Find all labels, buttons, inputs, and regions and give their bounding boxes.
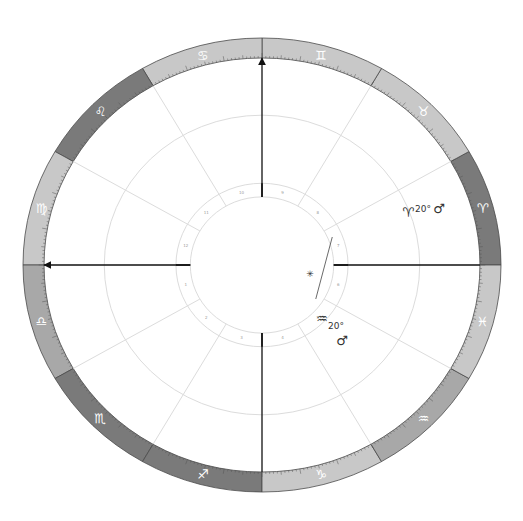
- planet-mars-0[interactable]: ♈20°♂: [402, 201, 445, 220]
- house-cusp-line: [73, 161, 200, 230]
- house-number: 3: [240, 335, 243, 340]
- house-number: 2: [205, 315, 208, 320]
- house-cusp-line: [73, 299, 200, 368]
- house-cusp-line: [298, 324, 371, 444]
- sign-glyph-scorpio-icon: ♏: [95, 411, 107, 426]
- house-ring-inner: [190, 197, 333, 333]
- aspect-marker-icon: ✳: [306, 269, 314, 279]
- sign-segment-pisces: [451, 265, 501, 379]
- house-number: 4: [281, 335, 284, 340]
- sign-glyph-leo-icon: ♌: [95, 104, 107, 119]
- sign-glyph-libra-icon: ♎: [35, 314, 47, 329]
- sign-glyph-sagittarius-icon: ♐: [197, 467, 209, 482]
- astrology-chart-wheel: ♈♉♊♋♌♍♎♏♐♑♒♓235689111214710✳♈20°♂♒20°♂: [0, 0, 523, 521]
- sign-segment-libra: [23, 265, 73, 379]
- sign-segment-virgo: [23, 152, 73, 266]
- sign-glyph-virgo-icon: ♍: [35, 201, 47, 216]
- sign-glyph-aquarius-icon: ♒: [418, 411, 430, 426]
- sign-segment-aries: [451, 152, 501, 266]
- sign-aquarius-icon: ♒: [316, 311, 328, 326]
- sign-glyph-gemini-icon: ♊: [315, 48, 327, 63]
- house-number: 10: [239, 190, 245, 195]
- mars-icon: ♂: [433, 201, 445, 216]
- house-number: 8: [316, 210, 319, 215]
- house-number: 1: [185, 282, 188, 287]
- house-number: 11: [204, 210, 210, 215]
- planet-mars-1[interactable]: ♒20°♂: [316, 311, 348, 348]
- house-number: 12: [183, 243, 189, 248]
- house-number: 7: [337, 243, 340, 248]
- sign-glyph-capricorn-icon: ♑: [315, 467, 327, 482]
- house-cusp-line: [324, 161, 451, 230]
- planet-degree: 20°: [415, 204, 431, 214]
- sign-glyph-taurus-icon: ♉: [418, 104, 430, 119]
- house-number: 9: [281, 190, 284, 195]
- house-cusp-line: [153, 324, 226, 444]
- planet-degree: 20°: [328, 321, 344, 331]
- house-number: 6: [337, 282, 340, 287]
- sign-aries-icon: ♈: [402, 205, 414, 220]
- house-cusp-line: [153, 86, 226, 206]
- sign-glyph-pisces-icon: ♓: [477, 314, 489, 329]
- mars-icon: ♂: [336, 333, 348, 348]
- sign-glyph-aries-icon: ♈: [477, 201, 489, 216]
- house-cusp-line: [298, 86, 371, 206]
- sign-glyph-cancer-icon: ♋: [197, 48, 209, 63]
- aspect-line: [316, 237, 332, 299]
